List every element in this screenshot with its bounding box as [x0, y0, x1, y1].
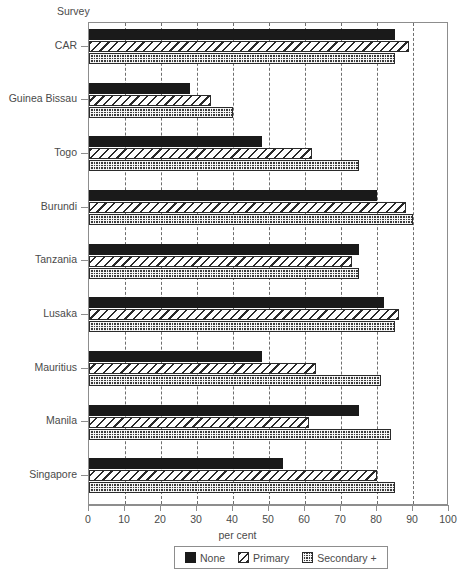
x-axis-label: 60 [298, 513, 310, 525]
y-axis-label: Burundi [41, 200, 77, 212]
bar-primary [89, 417, 309, 428]
x-tick-50 [268, 505, 269, 511]
y-tick [81, 314, 88, 315]
x-axis-label: 50 [262, 513, 274, 525]
bar-none [89, 297, 384, 308]
y-axis-label: Lusaka [43, 307, 77, 319]
x-tick-10 [124, 505, 125, 511]
bar-group [89, 23, 447, 77]
legend-swatch-none-icon [185, 552, 196, 563]
x-tick-60 [304, 505, 305, 511]
x-axis-label: 70 [334, 513, 346, 525]
bar-primary [89, 470, 377, 481]
y-axis-label: Togo [54, 146, 77, 158]
x-axis-label: 30 [190, 513, 202, 525]
legend-label: Primary [253, 552, 289, 564]
bar-secondary [89, 482, 395, 493]
x-axis-label: 40 [226, 513, 238, 525]
y-tick [81, 368, 88, 369]
bar-none [89, 351, 262, 362]
bar-primary [89, 202, 406, 213]
y-axis-label: Singapore [29, 468, 77, 480]
bar-group [89, 345, 447, 399]
legend-swatch-secondary-icon [302, 552, 313, 563]
y-tick [81, 475, 88, 476]
y-axis-label: Manila [46, 414, 77, 426]
y-tick [81, 421, 88, 422]
x-tick-70 [340, 505, 341, 511]
y-axis-label: Guinea Bissau [9, 92, 77, 104]
y-tick [81, 207, 88, 208]
bar-secondary [89, 53, 395, 64]
chart-legend: NonePrimarySecondary + [174, 546, 388, 569]
x-axis-label: 90 [406, 513, 418, 525]
legend-item: Primary [238, 552, 289, 564]
x-tick-0 [88, 505, 89, 511]
bar-primary [89, 148, 312, 159]
bar-secondary [89, 214, 413, 225]
bar-primary [89, 41, 409, 52]
bar-secondary [89, 268, 359, 279]
x-tick-100 [448, 505, 449, 511]
bar-primary [89, 309, 399, 320]
plot-area [88, 22, 448, 505]
bar-secondary [89, 107, 233, 118]
x-axis-label: 0 [85, 513, 91, 525]
bar-secondary [89, 375, 381, 386]
bar-primary [89, 95, 211, 106]
x-tick-80 [376, 505, 377, 511]
legend-item: None [185, 552, 225, 564]
x-axis-title: per cent [0, 529, 475, 541]
y-tick [81, 99, 88, 100]
x-tick-20 [160, 505, 161, 511]
bar-group [89, 452, 447, 505]
x-axis-label: 100 [439, 513, 457, 525]
legend-label: None [200, 552, 225, 564]
bar-primary [89, 256, 352, 267]
x-tick-30 [196, 505, 197, 511]
x-axis-label: 20 [154, 513, 166, 525]
y-tick [81, 46, 88, 47]
x-tick-40 [232, 505, 233, 511]
bar-secondary [89, 321, 395, 332]
x-axis-label: 80 [370, 513, 382, 525]
bar-group [89, 238, 447, 292]
bar-none [89, 244, 359, 255]
x-tick-90 [412, 505, 413, 511]
y-tick [81, 260, 88, 261]
bar-secondary [89, 160, 359, 171]
bar-secondary [89, 429, 391, 440]
bar-none [89, 405, 359, 416]
y-axis-label: CAR [55, 39, 77, 51]
y-axis-label: Mauritius [34, 361, 77, 373]
bar-group [89, 399, 447, 453]
legend-swatch-primary-icon [238, 552, 249, 563]
legend-label: Secondary + [317, 552, 376, 564]
bar-none [89, 190, 377, 201]
bar-group [89, 291, 447, 345]
bar-none [89, 29, 395, 40]
bar-group [89, 130, 447, 184]
y-axis-label: Tanzania [35, 253, 77, 265]
bar-group [89, 77, 447, 131]
bar-none [89, 136, 262, 147]
y-tick [81, 153, 88, 154]
bar-group [89, 184, 447, 238]
bar-none [89, 83, 190, 94]
chart-root: Survey CARGuinea BissauTogoBurundiTanzan… [0, 0, 475, 586]
bar-none [89, 458, 283, 469]
y-axis-title: Survey [57, 5, 90, 17]
x-axis-label: 10 [118, 513, 130, 525]
bar-primary [89, 363, 316, 374]
legend-item: Secondary + [302, 552, 376, 564]
